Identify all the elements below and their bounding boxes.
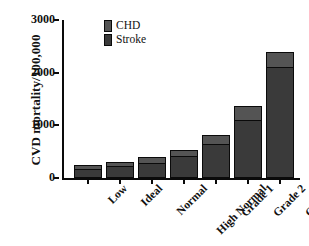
bar-segment-stroke [235, 121, 261, 177]
x-axis-labels: Low Ideal Normal High Normal Grade 1 Gra… [62, 180, 300, 244]
y-tick-label-0: 0 [15, 171, 55, 183]
legend-swatch-chd-icon [104, 20, 112, 32]
bar-low[interactable] [74, 165, 102, 178]
bar-segment-chd [235, 107, 261, 121]
bar-normal[interactable] [138, 157, 166, 178]
bar-ideal[interactable] [106, 162, 134, 178]
bar-group [64, 20, 300, 178]
legend-item-chd[interactable]: CHD [104, 19, 146, 32]
bar-segment-stroke [139, 164, 165, 177]
bar-segment-stroke [75, 170, 101, 177]
bar-segment-stroke [267, 68, 293, 177]
bar-grade-3[interactable] [266, 52, 294, 178]
cvd-mortality-bar-chart: CVD mortality/100,000 3000 2000 1000 0 [0, 0, 309, 246]
bar-segment-stroke [171, 157, 197, 177]
bar-high-normal[interactable] [170, 150, 198, 178]
y-tick-label-2000: 2000 [15, 66, 55, 78]
legend-swatch-stroke-icon [104, 34, 112, 46]
legend: CHD Stroke [104, 19, 146, 46]
bar-segment-chd [267, 53, 293, 69]
y-tick-label-1000: 1000 [15, 118, 55, 130]
y-tick-label-3000: 3000 [15, 13, 55, 25]
y-axis-title: CVD mortality/100,000 [28, 15, 44, 185]
x-label-low: Low [105, 182, 129, 206]
x-label-grade-2: Grade 2 [271, 182, 308, 219]
bar-grade-1[interactable] [202, 135, 230, 178]
bar-segment-stroke [203, 145, 229, 177]
legend-label-chd: CHD [116, 20, 140, 32]
bar-grade-2[interactable] [234, 106, 262, 178]
bar-segment-stroke [107, 167, 133, 177]
x-label-normal: Normal [174, 182, 209, 217]
legend-item-stroke[interactable]: Stroke [104, 33, 146, 46]
x-label-ideal: Ideal [138, 182, 164, 208]
plot-area: 3000 2000 1000 0 [62, 20, 300, 180]
bar-segment-chd [203, 136, 229, 145]
legend-label-stroke: Stroke [116, 34, 146, 46]
